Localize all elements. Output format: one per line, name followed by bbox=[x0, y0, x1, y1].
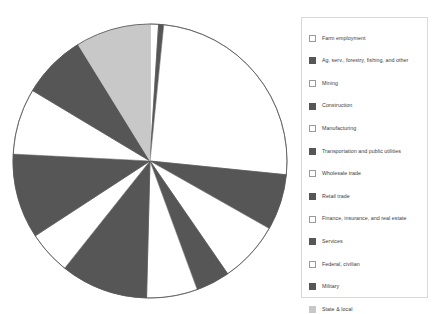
legend-swatch-retail-trade bbox=[309, 193, 316, 200]
legend-label-ag-serv-forestry-fishing-and-other: Ag. serv., forestry, fishing, and other bbox=[322, 58, 408, 63]
legend-item-construction[interactable]: Construction bbox=[302, 95, 427, 118]
legend-label-manufacturing: Manufacturing bbox=[322, 126, 356, 131]
legend-item-finance-insurance-and-real-estate[interactable]: Finance, insurance, and real estate bbox=[302, 208, 427, 231]
legend-swatch-mining bbox=[309, 80, 316, 87]
legend-item-farm-employment[interactable]: Farm employment bbox=[302, 27, 427, 50]
pie-chart-figure: Farm employment Ag. serv., forestry, fis… bbox=[0, 0, 448, 314]
legend-label-military: Military bbox=[322, 284, 339, 289]
pie-svg bbox=[0, 0, 295, 314]
legend-swatch-construction bbox=[309, 103, 316, 110]
legend-item-transportation-and-public-utilities[interactable]: Transportation and public utilities bbox=[302, 140, 427, 163]
legend-label-state-and-local: State & local bbox=[322, 307, 352, 312]
legend-label-services: Services bbox=[322, 239, 343, 244]
legend-label-federal-civilian: Federal, civilian bbox=[322, 262, 360, 267]
legend-label-construction: Construction bbox=[322, 103, 352, 108]
legend-swatch-finance-insurance-and-real-estate bbox=[309, 216, 316, 223]
pie-slice[interactable] bbox=[150, 25, 287, 175]
chart-legend: Farm employment Ag. serv., forestry, fis… bbox=[301, 17, 428, 298]
legend-swatch-ag-serv-forestry-fishing-and-other bbox=[309, 57, 316, 64]
legend-label-finance-insurance-and-real-estate: Finance, insurance, and real estate bbox=[322, 216, 407, 221]
pie-slice-group bbox=[13, 24, 287, 298]
pie-plot-area bbox=[0, 0, 295, 314]
legend-item-mining[interactable]: Mining bbox=[302, 72, 427, 95]
legend-swatch-manufacturing bbox=[309, 125, 316, 132]
legend-swatch-wholesale-trade bbox=[309, 170, 316, 177]
legend-label-farm-employment: Farm employment bbox=[322, 36, 365, 41]
legend-label-transportation-and-public-utilities: Transportation and public utilities bbox=[322, 149, 401, 154]
legend-item-manufacturing[interactable]: Manufacturing bbox=[302, 117, 427, 140]
legend-swatch-farm-employment bbox=[309, 35, 316, 42]
legend-label-retail-trade: Retail trade bbox=[322, 194, 350, 199]
legend-item-ag-serv-forestry-fishing-and-other[interactable]: Ag. serv., forestry, fishing, and other bbox=[302, 50, 427, 73]
legend-label-wholesale-trade: Wholesale trade bbox=[322, 171, 361, 176]
legend-swatch-military bbox=[309, 283, 316, 290]
legend-swatch-state-and-local bbox=[309, 306, 316, 313]
legend-item-military[interactable]: Military bbox=[302, 276, 427, 299]
legend-item-federal-civilian[interactable]: Federal, civilian bbox=[302, 253, 427, 276]
legend-item-wholesale-trade[interactable]: Wholesale trade bbox=[302, 163, 427, 186]
legend-swatch-services bbox=[309, 238, 316, 245]
legend-item-retail-trade[interactable]: Retail trade bbox=[302, 185, 427, 208]
legend-swatch-transportation-and-public-utilities bbox=[309, 148, 316, 155]
legend-item-state-and-local[interactable]: State & local bbox=[302, 298, 427, 314]
legend-label-mining: Mining bbox=[322, 81, 338, 86]
legend-item-services[interactable]: Services bbox=[302, 230, 427, 253]
legend-swatch-federal-civilian bbox=[309, 261, 316, 268]
